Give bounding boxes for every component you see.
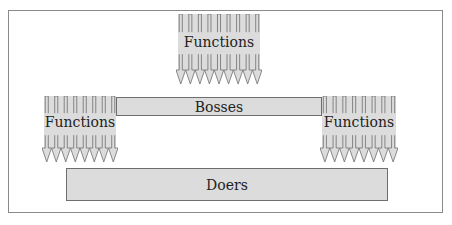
left-functions-arrows: Functions [42, 96, 118, 162]
top-functions-label: Functions [176, 34, 262, 50]
bosses-label: Bosses [195, 99, 244, 115]
right-functions-arrows: Functions [320, 96, 398, 162]
top-functions-arrows: Functions [176, 14, 262, 84]
left-functions-label: Functions [42, 114, 118, 130]
right-functions-label: Functions [320, 114, 398, 130]
doers-label: Doers [206, 177, 248, 193]
doers-box: Doers [66, 168, 388, 201]
bosses-box: Bosses [116, 97, 322, 116]
